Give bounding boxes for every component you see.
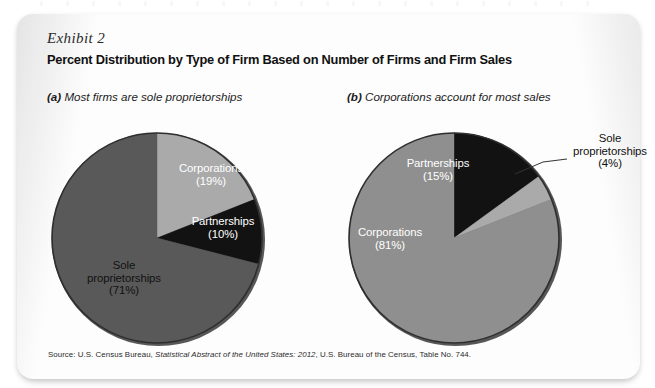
panel-a-caption-text: Most firms are sole proprietorships: [64, 90, 242, 103]
callout-leader-line: [513, 154, 569, 180]
exhibit-number-label: Exhibit 2: [47, 30, 105, 47]
slice-name-a-corporations: Corporations: [157, 162, 265, 175]
source-prefix: Source: U.S. Census Bureau,: [48, 350, 155, 359]
callout-label-b-sole-proprietorships: Sole proprietorships (4%): [562, 132, 655, 170]
slice-pct-a-sole: (71%): [68, 284, 180, 297]
slice-label-a-partnerships: Partnerships (10%): [167, 215, 279, 240]
slice-label-a-sole-proprietorships: Sole proprietorships (71%): [68, 259, 180, 297]
slice-name-a-sole-line1: Sole: [68, 259, 180, 272]
panel-a-caption: (a) Most firms are sole proprietorships: [47, 90, 242, 103]
slice-pct-a-partnerships: (10%): [167, 228, 279, 241]
slice-pct-a-corporations: (19%): [157, 175, 265, 188]
source-suffix: , U.S. Bureau of the Census, Table No. 7…: [316, 350, 472, 359]
slice-pct-b-corporations: (81%): [335, 239, 445, 252]
callout-name-b-sole-line2: proprietorships: [562, 145, 655, 158]
page-scan-artifact: [0, 0, 655, 14]
panel-b-tag: (b): [347, 90, 362, 103]
slice-label-a-corporations: Corporations (19%): [157, 162, 265, 187]
exhibit-title: Percent Distribution by Type of Firm Bas…: [47, 52, 512, 67]
slice-label-b-corporations: Corporations (81%): [335, 226, 445, 251]
callout-pct-b-sole: (4%): [562, 157, 655, 170]
slice-pct-b-partnerships: (15%): [385, 170, 491, 183]
panel-b-caption-text: Corporations account for most sales: [365, 90, 551, 103]
slice-name-b-partnerships: Partnerships: [385, 157, 491, 170]
source-title-italic: Statistical Abstract of the United State…: [155, 350, 315, 359]
pie-chart-a: Corporations (19%) Partnerships (10%) So…: [50, 131, 264, 345]
exhibit-panel: Exhibit 2 Percent Distribution by Type o…: [17, 14, 640, 379]
callout-name-b-sole-line1: Sole: [562, 132, 655, 145]
slice-label-b-partnerships: Partnerships (15%): [385, 157, 491, 182]
slice-name-b-corporations: Corporations: [335, 226, 445, 239]
source-note: Source: U.S. Census Bureau, Statistical …: [48, 350, 471, 359]
panel-a-tag: (a): [47, 90, 61, 103]
slice-name-a-sole-line2: proprietorships: [68, 272, 180, 285]
slice-name-a-partnerships: Partnerships: [167, 215, 279, 228]
panel-b-caption: (b) Corporations account for most sales: [347, 90, 551, 103]
